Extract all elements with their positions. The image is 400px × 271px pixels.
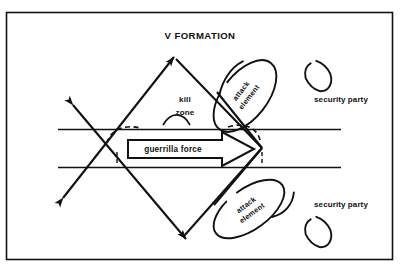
- security-party-upper-label: security party: [314, 95, 368, 104]
- kill-zone-label-line2: zone: [175, 108, 194, 117]
- figure-border: [7, 13, 393, 260]
- diagram-figure: kill zone guerrilla force attack element…: [0, 0, 400, 271]
- security-party-lower-label: security party: [314, 200, 368, 209]
- guerrilla-force-label: guerrilla force: [144, 145, 202, 154]
- kill-zone-label-line1: kill: [179, 95, 191, 104]
- diagram-canvas: kill zone guerrilla force attack element…: [0, 0, 400, 271]
- page-title: V FORMATION: [165, 30, 236, 41]
